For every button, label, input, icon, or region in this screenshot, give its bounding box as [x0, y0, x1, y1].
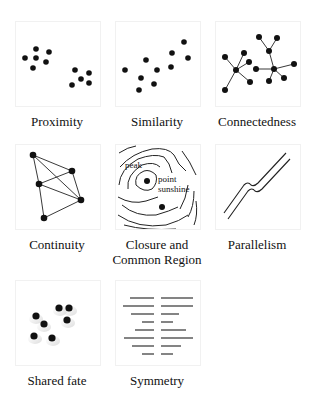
panel-connectedness: [215, 21, 301, 107]
panel-proximity: [15, 21, 101, 107]
parallelism-lines-illustration: [216, 145, 300, 229]
caption-parallelism: Parallelism: [202, 237, 312, 252]
similarity-dots-illustration: [116, 22, 200, 106]
closure-contour-map-illustration: peak point sunshine: [116, 145, 200, 229]
connectedness-network-illustration: [216, 22, 300, 106]
caption-proximity: Proximity: [2, 114, 112, 129]
continuity-graph-illustration: [16, 145, 100, 229]
proximity-dots-illustration: [16, 22, 100, 106]
caption-connectedness: Connectedness: [202, 114, 312, 129]
caption-similarity: Similarity: [102, 114, 212, 129]
symmetry-lines-illustration: [116, 281, 200, 365]
panel-continuity: [15, 144, 101, 230]
caption-symmetry: Symmetry: [102, 373, 212, 388]
caption-shared-fate: Shared fate: [2, 373, 112, 388]
label-point: point: [158, 174, 177, 184]
panel-parallelism: [215, 144, 301, 230]
panel-shared-fate: [15, 280, 101, 366]
caption-closure-line1: Closure and: [102, 237, 212, 252]
panel-closure: peak point sunshine: [115, 144, 201, 230]
label-sunshine: sunshine: [158, 184, 190, 194]
caption-continuity: Continuity: [2, 237, 112, 252]
panel-similarity: [115, 21, 201, 107]
label-peak: peak: [125, 160, 142, 170]
shared-fate-dots-illustration: [16, 281, 100, 365]
panel-symmetry: [115, 280, 201, 366]
caption-closure-line2: Common Region: [102, 252, 212, 267]
